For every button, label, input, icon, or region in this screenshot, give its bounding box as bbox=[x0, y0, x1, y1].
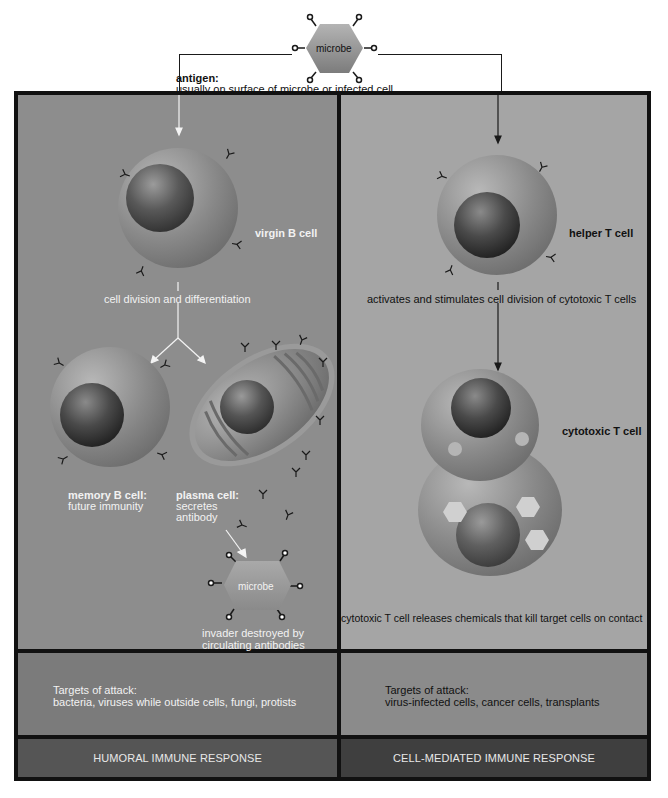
lower-microbe-label: microbe bbox=[238, 580, 274, 593]
activates-label: activates and stimulates cell division o… bbox=[367, 293, 636, 306]
invader-destroyed-2: circulating antibodies bbox=[202, 639, 305, 652]
cell-mediated-targets-desc: virus-infected cells, cancer cells, tran… bbox=[385, 696, 600, 709]
memory-b-cell-desc: future immunity bbox=[68, 500, 143, 513]
virgin-b-cell-label: virgin B cell bbox=[255, 227, 317, 240]
helper-t-cell-label: helper T cell bbox=[569, 227, 633, 240]
release-label: cytotoxic T cell releases chemicals that… bbox=[341, 612, 642, 625]
cell-illustrations bbox=[0, 0, 668, 798]
humoral-targets-desc: bacteria, viruses while outside cells, f… bbox=[53, 696, 296, 709]
cytotoxic-t-cell-label: cytotoxic T cell bbox=[562, 425, 641, 438]
plasma-cell-desc-2: antibody bbox=[176, 511, 218, 524]
division-label: cell division and differentiation bbox=[104, 293, 251, 306]
